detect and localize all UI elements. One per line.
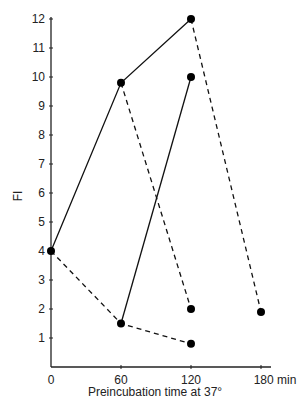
x-tick-label: 180 min	[254, 373, 297, 387]
y-tick-label: 11	[33, 41, 46, 55]
data-point	[187, 305, 195, 313]
y-tick-label: 3	[38, 273, 45, 287]
y-tick-label: 12	[32, 12, 46, 26]
data-point	[187, 15, 195, 23]
series-line	[51, 19, 191, 251]
data-point	[117, 79, 125, 87]
data-lines	[51, 19, 261, 344]
data-point	[117, 320, 125, 328]
y-axis-title: FI	[11, 191, 25, 202]
series-line	[121, 77, 191, 324]
x-axis-title: Preincubation time at 37°	[88, 385, 222, 399]
series-line	[121, 83, 191, 309]
y-tick-label: 4	[38, 244, 45, 258]
y-tick-label: 10	[32, 70, 46, 84]
data-point	[47, 247, 55, 255]
line-chart: 123456789101112060120180 min FI Preincub…	[0, 0, 305, 405]
x-tick-label: 0	[48, 373, 55, 387]
axes: 123456789101112060120180 min	[32, 12, 297, 387]
data-point	[187, 340, 195, 348]
y-tick-label: 1	[38, 331, 45, 345]
data-point	[187, 73, 195, 81]
y-tick-label: 7	[38, 157, 45, 171]
y-tick-label: 5	[38, 215, 45, 229]
y-tick-label: 9	[38, 99, 45, 113]
y-tick-label: 8	[38, 128, 45, 142]
y-tick-label: 2	[38, 302, 45, 316]
data-point	[257, 308, 265, 316]
series-line	[51, 251, 191, 344]
series-line	[191, 19, 261, 312]
y-tick-label: 6	[38, 186, 45, 200]
